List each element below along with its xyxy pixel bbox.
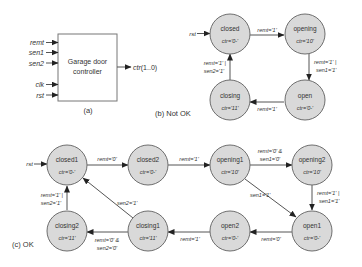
transition-label: remt='1' [179,156,199,162]
state-machine-c: rst remt='0' remt='1' remt='0' & sen1='0… [12,145,340,251]
transition-label: sen1='1' [250,192,271,198]
state-machine-diagram: Garage door controller remt sen1 sen2 cl… [0,0,362,267]
transition-label: remt='1' | [204,60,227,66]
transition-label: sen2='1' [204,68,225,74]
svg-text:opening: opening [293,25,317,33]
state-closing1: closing1 ctr='11' [128,211,168,251]
state-open: open ctr='0-' [285,80,325,120]
caption-b: (b) Not OK [155,109,191,118]
transition-label: remt='1' | [41,192,64,198]
input-label-sen1: sen1 [29,49,44,56]
transition-label: remt='1' | [317,190,340,196]
svg-text:ctr='10': ctr='10' [221,169,239,175]
svg-text:open: open [298,92,313,100]
controller-label-line2: controller [73,68,102,75]
svg-text:ctr='0-': ctr='0-' [297,105,314,111]
input-label-remt: remt [30,39,45,46]
transition-label: remt='0' [97,156,117,162]
state-opening: opening ctr='10' [285,14,325,54]
svg-text:ctr='0-': ctr='0-' [222,38,239,44]
svg-text:ctr='0-': ctr='0-' [140,169,157,175]
transition-label: sen1='0' [260,156,281,162]
transition-label: sen2='0' [97,245,118,251]
output-label: ctr(1..0) [133,64,157,72]
svg-text:ctr='0-': ctr='0-' [59,169,76,175]
svg-text:ctr='11': ctr='11' [139,235,157,241]
svg-text:closed1: closed1 [56,156,79,163]
block-diagram-a: Garage door controller remt sen1 sen2 cl… [29,34,157,115]
svg-text:opening1: opening1 [217,156,244,164]
input-label-sen2: sen2 [29,60,44,67]
state-closed: closed ctr='0-' [210,14,250,54]
transition-opening1-open1 [245,179,296,217]
input-label-clk: clk [35,81,44,88]
reset-label-c: rst [26,161,33,167]
svg-text:open2: open2 [221,222,239,230]
caption-a: (a) [83,106,93,115]
state-closing: closing ctr='11' [210,80,250,120]
transition-label: sen2='1' [117,200,138,206]
svg-text:closing1: closing1 [136,222,160,230]
svg-text:ctr='10': ctr='10' [303,169,321,175]
state-closing2: closing2 ctr='11' [47,211,87,251]
svg-text:ctr='11': ctr='11' [221,105,239,111]
svg-text:ctr='11': ctr='11' [58,235,76,241]
svg-text:ctr='0-': ctr='0-' [304,235,321,241]
transition-closing1-closed1 [83,178,133,218]
transition-label: remt='1' | [314,59,337,65]
svg-text:closed2: closed2 [137,156,160,163]
svg-text:opening2: opening2 [299,156,326,164]
transition-label: sen1='1' [319,198,340,204]
state-open2: open2 ctr='0-' [210,211,250,251]
caption-c: (c) OK [12,240,34,249]
state-opening1: opening1 ctr='10' [210,145,250,185]
state-closed1: closed1 ctr='0-' [47,145,87,185]
svg-text:closed: closed [221,25,240,32]
transition-label: remt='0' & [95,237,120,243]
transition-label: remt='1' [180,236,200,242]
transition-label: sen1='1' [316,67,337,73]
controller-label-line1: Garage door [68,58,108,66]
state-closed2: closed2 ctr='0-' [128,145,168,185]
state-open1: open1 ctr='0-' [292,211,332,251]
svg-text:closing2: closing2 [55,222,79,230]
state-machine-b: rst remt='1' remt='1' | sen1='1' remt='1… [155,14,337,120]
reset-label-b: rst [189,31,196,37]
svg-text:closing: closing [220,92,241,100]
transition-label: remt='1' [257,27,277,33]
state-opening2: opening2 ctr='10' [292,145,332,185]
svg-text:open1: open1 [303,222,321,230]
transition-label: remt='1' [257,106,277,112]
transition-label: remt='0' & [258,148,283,154]
svg-text:ctr='0-': ctr='0-' [222,235,239,241]
input-label-rst: rst [36,92,45,99]
transition-label: remt='0' [261,236,281,242]
transition-label: sen2='1' [41,200,62,206]
svg-text:ctr='10': ctr='10' [296,38,314,44]
